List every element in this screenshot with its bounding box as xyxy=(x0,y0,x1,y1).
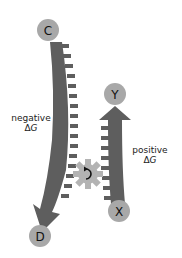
node-y-label: Y xyxy=(110,88,119,102)
node-d: D xyxy=(29,225,51,247)
negative-label-text: negative xyxy=(8,113,54,123)
node-c-label: C xyxy=(44,24,52,38)
positive-label-text: positive xyxy=(127,145,173,155)
negative-dg-label: negative ΔG xyxy=(8,113,54,133)
positive-dg-label: positive ΔG xyxy=(127,145,173,165)
node-y: Y xyxy=(104,83,126,105)
node-c: C xyxy=(37,19,59,41)
node-x: X xyxy=(108,200,130,222)
g-variable: G xyxy=(31,123,38,133)
node-d-label: D xyxy=(35,230,44,244)
g-variable: G xyxy=(150,155,157,165)
gear-icon xyxy=(73,159,103,189)
negative-dg-arrow xyxy=(33,42,78,232)
node-x-label: X xyxy=(115,205,123,219)
